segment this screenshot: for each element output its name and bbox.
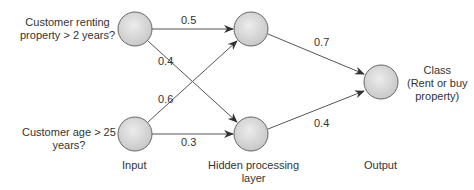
layer-label-input: Input xyxy=(122,159,146,172)
output-label-line2: (Rent or buy xyxy=(407,77,468,90)
output-label-line1: Class xyxy=(407,64,468,77)
weight-i2-h2: 0.3 xyxy=(181,136,196,148)
hidden-node-2 xyxy=(234,117,268,151)
output-label: Class (Rent or buy property) xyxy=(407,64,468,103)
weight-h1-o: 0.7 xyxy=(314,36,329,48)
weight-i2-h1: 0.6 xyxy=(158,93,173,105)
input-label-2: Customer age > 25 years? xyxy=(22,126,116,152)
output-label-line3: property) xyxy=(407,90,468,103)
weight-i1-h2: 0.4 xyxy=(158,55,173,67)
input-node-2 xyxy=(118,117,152,151)
input-label-1-line1: Customer renting xyxy=(20,16,115,29)
input-node-1 xyxy=(118,12,152,46)
layer-label-output: Output xyxy=(364,159,397,172)
layer-label-hidden: Hidden processing layer xyxy=(208,159,299,185)
input-label-2-line1: Customer age > 25 xyxy=(22,126,116,139)
input-label-2-line2: years? xyxy=(22,139,116,152)
weight-i1-h1: 0.5 xyxy=(181,14,196,26)
hidden-node-1 xyxy=(234,12,268,46)
layer-label-hidden-line1: Hidden processing xyxy=(208,159,299,172)
output-node xyxy=(364,65,398,99)
input-label-1: Customer renting property > 2 years? xyxy=(20,16,115,42)
weight-h2-o: 0.4 xyxy=(314,117,329,129)
layer-label-hidden-line2: layer xyxy=(208,172,299,185)
input-label-1-line2: property > 2 years? xyxy=(20,29,115,42)
